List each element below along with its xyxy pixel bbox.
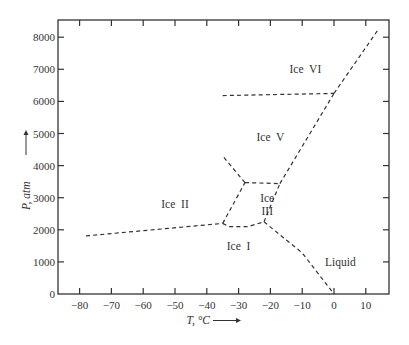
region-label-ice-i: Ice I (227, 240, 251, 252)
y-tick-label: 2000 (33, 224, 56, 236)
phase-diagram: −80−70−60−50−40−30−20−10010 010002000300… (0, 0, 409, 345)
x-tick-label: −60 (135, 299, 153, 311)
phase-boundary-line (223, 93, 334, 95)
region-label-ice-v: Ice V (256, 131, 285, 143)
phase-boundaries (86, 29, 379, 294)
y-tick-label: 4000 (33, 160, 56, 172)
y-tick-label: 7000 (33, 63, 56, 75)
x-tick-label: −10 (294, 299, 312, 311)
x-tick-label: 0 (331, 299, 337, 311)
region-label-ice-iii: Ice (260, 192, 274, 204)
x-tick-label: −80 (71, 299, 89, 311)
phase-boundary-line (264, 222, 334, 294)
x-tick-label: −70 (103, 299, 121, 311)
y-tick-label: 3000 (33, 192, 56, 204)
y-tick-label: 5000 (33, 128, 56, 140)
x-tick-label: −30 (230, 299, 248, 311)
phase-boundary-line (245, 183, 280, 184)
arrow-head-right-icon (236, 318, 241, 323)
phase-boundary-line (223, 222, 264, 227)
x-tick-label: −50 (166, 299, 184, 311)
svg-text:P, atm: P, atm (20, 181, 33, 211)
x-tick-label: −40 (198, 299, 216, 311)
y-tick-label: 0 (50, 288, 56, 300)
phase-boundary-line (280, 93, 334, 183)
phase-boundary-line (223, 156, 245, 183)
arrow-head-up-icon (24, 130, 29, 135)
y-tick-label: 6000 (33, 95, 56, 107)
plot-frame (58, 20, 389, 294)
x-tick-label: −20 (262, 299, 280, 311)
phase-boundary-line (86, 223, 223, 236)
y-tick-label: 8000 (33, 31, 56, 43)
phase-boundary-line (334, 29, 379, 93)
region-label-ice-iii-numeral: III (261, 205, 273, 217)
region-label-liquid: Liquid (325, 256, 356, 269)
y-axis-title: P, atm (20, 130, 33, 211)
x-axis-title: T, °C (186, 314, 241, 327)
y-tick-label: 1000 (33, 256, 56, 268)
x-tick-label: 10 (360, 299, 372, 311)
region-label-ice-vi: Ice VI (290, 63, 322, 75)
region-label-ice-ii: Ice II (161, 198, 189, 210)
phase-boundary-line (223, 183, 245, 224)
svg-text:T, °C: T, °C (186, 314, 210, 327)
